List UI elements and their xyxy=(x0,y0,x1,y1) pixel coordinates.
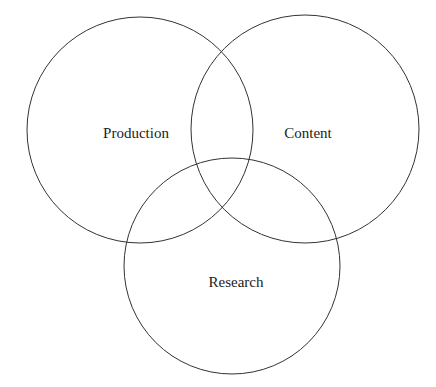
production-label: Production xyxy=(103,125,169,141)
venn-diagram: Production Content Research xyxy=(0,0,436,387)
research-label: Research xyxy=(209,274,264,290)
content-label: Content xyxy=(284,125,332,141)
research-circle xyxy=(124,158,340,374)
